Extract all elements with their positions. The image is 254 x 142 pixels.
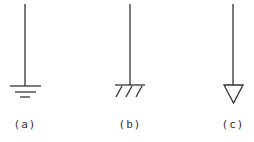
signal-ground-icon — [224, 4, 243, 103]
label-c: (c) — [213, 118, 253, 131]
chassis-ground-icon — [115, 4, 145, 97]
earth-ground-icon — [10, 4, 41, 97]
label-a: (a) — [5, 118, 45, 131]
label-b: (b) — [110, 118, 150, 131]
